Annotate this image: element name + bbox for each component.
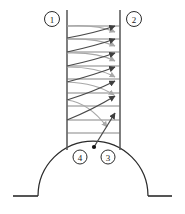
light-ray [67, 39, 115, 46]
dark-ray [67, 39, 115, 52]
ray-diagram-svg: 1 2 4 3 [0, 0, 185, 214]
callout-1-label: 1 [50, 15, 55, 25]
callout-3-label: 3 [106, 153, 111, 163]
dark-rays-group [67, 26, 115, 147]
callout-1: 1 [45, 12, 60, 27]
figure-canvas: 1 2 4 3 [0, 0, 185, 214]
callout-2-label: 2 [132, 15, 137, 25]
callout-4: 4 [73, 150, 87, 164]
dark-ray [67, 96, 115, 120]
callout-2: 2 [127, 12, 142, 27]
dome-arc [38, 141, 148, 196]
dark-ray [67, 81, 115, 100]
dark-ray [67, 53, 115, 66]
callout-4-label: 4 [78, 153, 83, 163]
apex-point-marker [92, 145, 96, 149]
dark-ray [67, 26, 115, 38]
dome-group [38, 141, 148, 196]
callout-3: 3 [101, 150, 115, 164]
